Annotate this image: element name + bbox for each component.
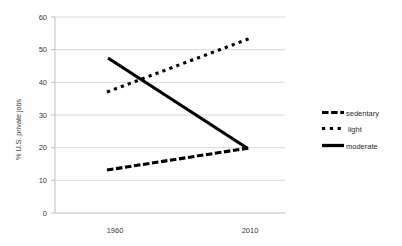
x-tick-label-1960: 1960 xyxy=(107,226,124,235)
y-tick-label-20: 20 xyxy=(39,143,47,152)
y-tick-label-30: 30 xyxy=(39,111,47,120)
legend-label-moderate: moderate xyxy=(346,142,378,151)
chart-container: 60 50 40 30 20 10 0 % U.S. private jobs … xyxy=(0,0,402,246)
line-chart: 60 50 40 30 20 10 0 % U.S. private jobs … xyxy=(0,0,402,246)
y-axis-title: % U.S. private jobs xyxy=(14,98,23,160)
chart-background xyxy=(0,0,402,246)
x-tick-label-2010: 2010 xyxy=(242,226,259,235)
y-tick-label-40: 40 xyxy=(39,78,47,87)
y-tick-label-50: 50 xyxy=(39,45,47,54)
y-tick-label-10: 10 xyxy=(39,176,47,185)
legend-label-sedentary: sedentary xyxy=(346,109,379,118)
legend-label-light: light xyxy=(348,125,363,134)
y-tick-label-60: 60 xyxy=(39,13,47,22)
y-tick-label-0: 0 xyxy=(43,209,47,218)
